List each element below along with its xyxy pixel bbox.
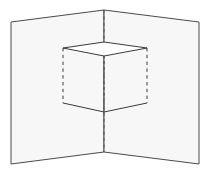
figure-caption [0, 162, 210, 176]
right-panel [104, 10, 199, 164]
figure-container [0, 0, 210, 176]
figure-svg [0, 0, 210, 176]
left-panel [11, 10, 104, 164]
